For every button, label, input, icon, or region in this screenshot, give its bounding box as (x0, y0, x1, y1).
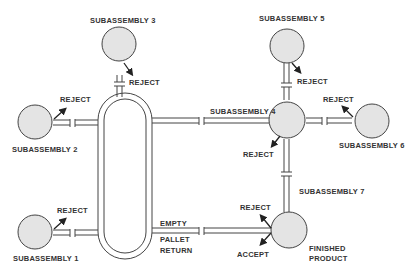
station-sub2 (18, 105, 52, 139)
reject-label-sub6: REJECT (323, 95, 354, 104)
reject-label-sub4: REJECT (243, 150, 274, 159)
label-sub7: SUBASSEMBLY 7 (299, 187, 365, 196)
empty-label: EMPTY (160, 219, 187, 228)
reject-label-sub5: REJECT (297, 77, 328, 86)
pallet-label: PALLET (160, 235, 190, 244)
label-sub6: SUBASSEMBLY 6 (339, 141, 405, 150)
reject-label-sub2: REJECT (60, 95, 91, 104)
station-sub3 (102, 27, 136, 61)
label-sub5: SUBASSEMBLY 5 (259, 14, 325, 23)
station-sub5 (270, 29, 304, 63)
reject-label-sub1: REJECT (57, 206, 88, 215)
central-loop-conveyor (98, 93, 152, 259)
reject-label-sub3: REJECT (129, 78, 160, 87)
label-sub4: SUBASSEMBLY 4 (210, 107, 276, 116)
accept-label-finished: ACCEPT (237, 250, 269, 259)
station-sub1 (18, 215, 52, 249)
finished-label-line1: FINISHED (309, 244, 346, 253)
label-sub2: SUBASSEMBLY 2 (12, 145, 78, 154)
station-finished (271, 212, 307, 248)
label-sub3: SUBASSEMBLY 3 (90, 16, 156, 25)
label-sub1: SUBASSEMBLY 1 (13, 254, 79, 263)
flow-diagram (0, 0, 407, 274)
station-sub6 (355, 104, 389, 138)
finished-label-line2: PRODUCT (309, 254, 347, 263)
return-label: RETURN (160, 246, 192, 255)
reject-label-finished: REJECT (240, 203, 271, 212)
